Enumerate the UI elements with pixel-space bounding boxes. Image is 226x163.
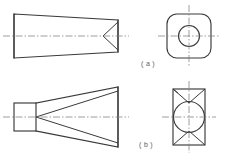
caption-b: ( b ) <box>139 141 153 148</box>
diagonal-lower-left-b <box>173 131 189 145</box>
diagonal-upper-right-b <box>189 89 205 103</box>
view-a-front <box>3 14 129 58</box>
view-b-end <box>162 81 216 153</box>
technical-drawing-canvas <box>0 0 226 163</box>
view-b-front <box>3 87 129 147</box>
drawing-sheet: ( a ) ( b ) <box>0 0 226 163</box>
diagonal-upper-left-out-b <box>173 89 178 93</box>
diagonal-lower-right-b <box>189 131 205 145</box>
caption-a: ( a ) <box>141 60 155 67</box>
view-a-end <box>158 5 220 67</box>
